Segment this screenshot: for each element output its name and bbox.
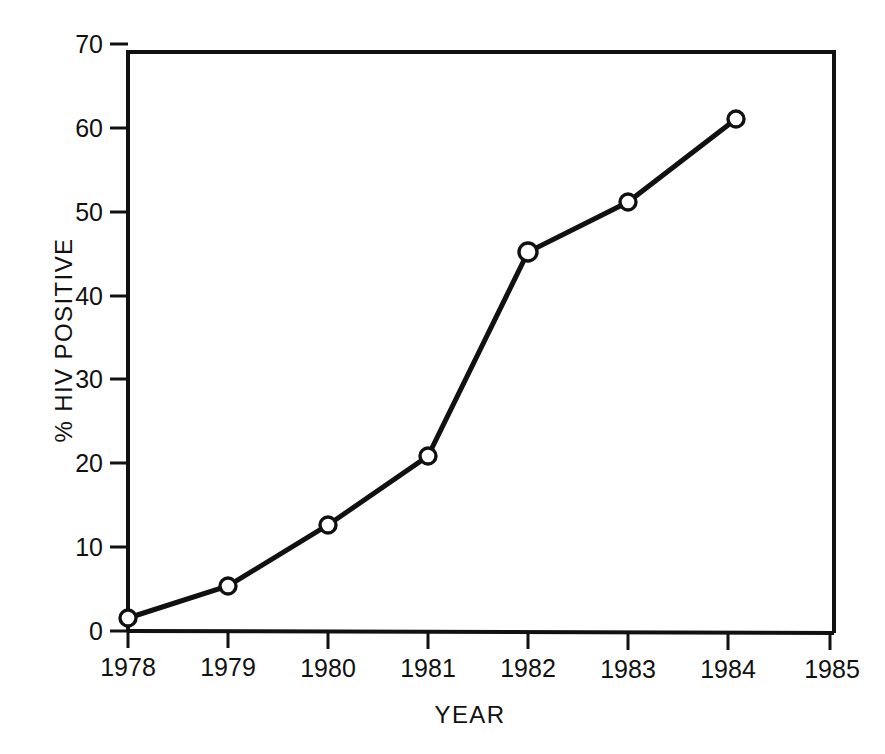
x-tick-label-1980: 1980: [300, 654, 356, 682]
data-point-1979: [220, 578, 236, 594]
x-tick-label-1981: 1981: [400, 654, 456, 682]
y-axis-title: % HIV POSITIVE: [50, 238, 77, 443]
y-tick-label-0: 0: [89, 617, 103, 645]
data-series-line: [128, 119, 736, 618]
x-tick-label-1985: 1985: [804, 655, 860, 683]
y-tick-label-70: 70: [75, 30, 103, 58]
y-tick-label-40: 40: [75, 282, 103, 310]
data-point-1980: [320, 517, 336, 533]
y-tick-label-60: 60: [75, 114, 103, 142]
x-tick-label-1979: 1979: [200, 653, 256, 681]
y-tick-labels: 0 10 20 30 40 50 60 70: [75, 30, 103, 645]
x-tick-label-1978: 1978: [100, 653, 156, 681]
x-tick-labels: 1978 1979 1980 1981 1982 1983 1984 1985: [100, 653, 860, 683]
x-tick-label-1984: 1984: [700, 655, 756, 683]
data-point-markers: [120, 111, 744, 626]
chart-figure: 0 10 20 30 40 50 60 70 1978 1979 1980 19…: [0, 0, 885, 754]
x-axis-line: [128, 631, 834, 633]
x-tick-label-1983: 1983: [600, 655, 656, 683]
y-tick-label-10: 10: [75, 533, 103, 561]
data-point-1981: [420, 448, 436, 464]
y-tick-label-30: 30: [75, 365, 103, 393]
data-point-1984: [728, 111, 744, 127]
data-point-1982: [519, 243, 537, 261]
x-axis-title: YEAR: [435, 701, 506, 728]
y-tick-marks: [110, 44, 128, 631]
line-chart: 0 10 20 30 40 50 60 70 1978 1979 1980 19…: [0, 0, 885, 754]
y-tick-label-50: 50: [75, 198, 103, 226]
data-point-1983: [620, 194, 636, 210]
x-tick-label-1982: 1982: [500, 654, 556, 682]
data-point-1978: [120, 610, 136, 626]
y-tick-label-20: 20: [75, 449, 103, 477]
